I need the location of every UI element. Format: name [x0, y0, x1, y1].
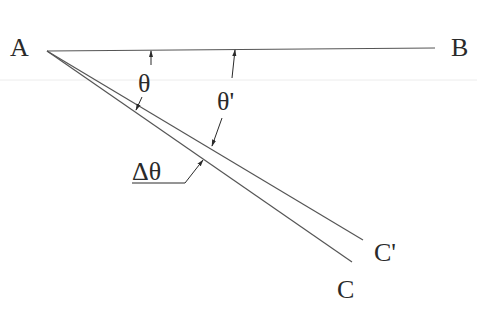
label-theta: θ: [138, 69, 150, 98]
label-c: C: [337, 275, 354, 304]
line-ac: [47, 51, 352, 262]
label-b: B: [451, 33, 468, 62]
label-delta-theta: Δθ: [132, 157, 161, 186]
label-theta-prime: θ': [217, 87, 234, 116]
theta-prime-arrow-down: [212, 118, 222, 146]
theta-arrow-down: [136, 97, 142, 110]
line-ab: [47, 48, 435, 51]
label-a: A: [10, 33, 29, 62]
angle-diagram: A B θ θ' Δθ C' C: [0, 0, 477, 314]
diagram-canvas: A B θ θ' Δθ C' C: [0, 0, 477, 314]
theta-prime-arrow-up: [232, 50, 235, 78]
label-c-prime: C': [374, 238, 396, 267]
line-ac-prime: [47, 51, 363, 240]
